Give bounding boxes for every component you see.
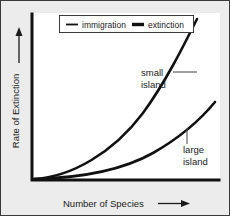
annotation-large-island-line2: island — [183, 156, 208, 167]
y-axis-arrow-icon — [16, 27, 23, 63]
figure-container: Rate of Extinction small island large is… — [0, 0, 230, 216]
x-axis-label: Number of Species — [63, 198, 144, 209]
legend-label-immigration: immigration — [82, 20, 126, 30]
y-axis-label: Rate of Extinction — [10, 74, 21, 148]
annotation-large-island-line1: large — [183, 144, 204, 155]
y-axis-label-group: Rate of Extinction — [10, 27, 23, 148]
annotation-small-island-line1: small — [141, 67, 163, 78]
x-axis-label-group: Number of Species — [63, 198, 190, 209]
x-axis-arrow-icon — [158, 200, 190, 207]
legend-label-extinction: extinction — [148, 20, 184, 30]
annotation-small-island-line2: island — [141, 79, 166, 90]
island-biogeography-chart: Rate of Extinction small island large is… — [1, 1, 230, 216]
chart-legend: immigration extinction — [60, 16, 194, 33]
